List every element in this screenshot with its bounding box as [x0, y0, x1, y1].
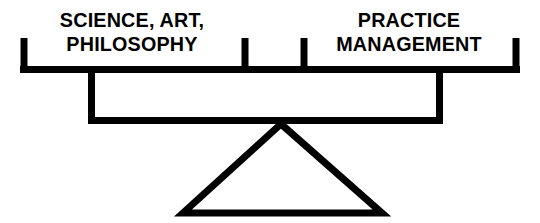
pan-label-right: PRACTICE MANAGEMENT	[310, 8, 507, 56]
pan-label-right-line-1: PRACTICE	[310, 8, 507, 32]
pan-label-right-line-2: MANAGEMENT	[310, 32, 507, 56]
pan-label-left: SCIENCE, ART, PHILOSOPHY	[29, 8, 236, 56]
pan-label-left-line-2: PHILOSOPHY	[29, 32, 236, 56]
pan-label-left-line-1: SCIENCE, ART,	[29, 8, 236, 32]
triangle-fulcrum	[183, 124, 382, 213]
diagram-canvas: SCIENCE, ART, PHILOSOPHY PRACTICE MANAGE…	[0, 0, 540, 223]
